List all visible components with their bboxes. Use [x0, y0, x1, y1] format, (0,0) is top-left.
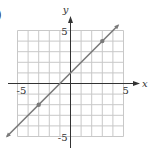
data-point	[100, 39, 104, 43]
data-point	[37, 103, 41, 107]
x-tick-label: -5	[17, 85, 27, 96]
x-tick-label: 5	[123, 85, 129, 96]
y-tick-label: 5	[61, 26, 67, 37]
line-graph: xy-555-5	[0, 0, 151, 153]
x-axis-label: x	[142, 78, 148, 89]
x-axis-arrow-icon	[133, 81, 140, 86]
y-tick-label: -5	[58, 132, 68, 143]
y-axis-arrow-icon	[68, 16, 73, 23]
y-axis-label: y	[62, 4, 69, 15]
